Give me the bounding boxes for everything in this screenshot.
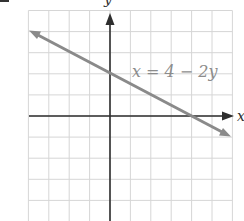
y-axis-arrow-icon: [106, 13, 115, 25]
problem-number-fragment: [0, 0, 9, 2]
coordinate-plane: x = 4 − 2y x y: [0, 0, 244, 221]
y-axis-label: y: [103, 0, 113, 7]
axes: [29, 13, 234, 221]
equation-label: x = 4 − 2y: [132, 62, 219, 81]
line-arrow-left-icon: [29, 31, 41, 40]
line-arrow-right-icon: [219, 128, 231, 137]
x-axis-label: x: [237, 108, 244, 124]
